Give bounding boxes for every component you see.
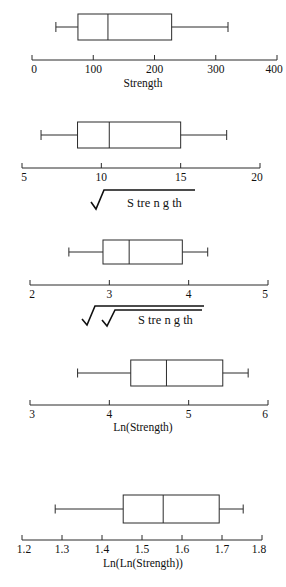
radicand-text: S tre n g th bbox=[127, 196, 183, 210]
axis-tick-label: 1.2 bbox=[17, 543, 31, 556]
box-iqr bbox=[78, 122, 181, 148]
axis-tick-label: 400 bbox=[265, 63, 282, 76]
axis-tick-label: 5 bbox=[262, 288, 268, 301]
axis-tick-labels: 2345 bbox=[0, 288, 286, 303]
axis-tick-label: 20 bbox=[251, 171, 263, 184]
box-iqr bbox=[103, 240, 182, 264]
axis-tick-label: 200 bbox=[146, 63, 163, 76]
axis-caption: S tre n g th bbox=[0, 303, 286, 329]
axis-caption-text: Ln(Ln(Strength)) bbox=[103, 557, 183, 569]
axis-caption-text: Ln(Strength) bbox=[113, 421, 172, 433]
axis-caption: Ln(Ln(Strength)) bbox=[0, 556, 286, 570]
axis-tick-label: 1.3 bbox=[55, 543, 69, 556]
axis-tick-label: 1.8 bbox=[252, 543, 266, 556]
axis-tick-label: 100 bbox=[85, 63, 102, 76]
fourth-root-symbol: S tre n g th bbox=[78, 303, 208, 329]
axis-tick-label: 1.6 bbox=[175, 543, 189, 556]
axis-caption: Strength bbox=[0, 76, 286, 90]
axis-tick-label: 300 bbox=[207, 63, 224, 76]
axis-tick-label: 3 bbox=[106, 288, 112, 301]
axis-caption: Ln(Strength) bbox=[0, 420, 286, 434]
box-iqr bbox=[131, 360, 223, 386]
axis-tick-label: 1.4 bbox=[95, 543, 109, 556]
axis-tick-labels: 5101520 bbox=[0, 171, 286, 186]
radicand-text: S tre n g th bbox=[138, 313, 194, 327]
axis-tick-label: 1.5 bbox=[135, 543, 149, 556]
axis-caption: S tre n g th bbox=[0, 186, 286, 212]
radical-caption: S tre n g th bbox=[0, 303, 286, 329]
box-iqr bbox=[78, 14, 172, 40]
axis-caption-text: Strength bbox=[124, 77, 163, 89]
axis-tick-label: 15 bbox=[175, 171, 187, 184]
axis-tick-label: 1.7 bbox=[215, 543, 229, 556]
axis-tick-label: 2 bbox=[29, 288, 35, 301]
axis-tick-label: 10 bbox=[96, 171, 108, 184]
axis-tick-label: 5 bbox=[21, 171, 27, 184]
axis-tick-label: 4 bbox=[186, 288, 192, 301]
sqrt-symbol: S tre n g th bbox=[87, 186, 199, 212]
box-iqr bbox=[123, 495, 219, 523]
radical-caption: S tre n g th bbox=[0, 186, 286, 212]
axis-tick-label: 0 bbox=[31, 63, 37, 76]
